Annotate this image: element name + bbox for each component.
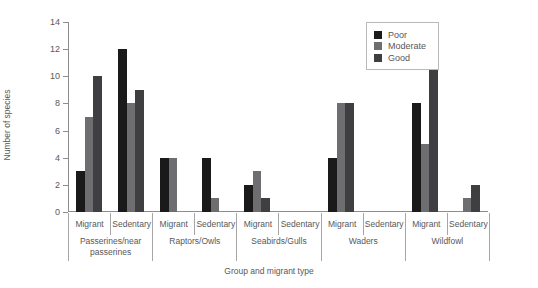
category-label-sedentary: Sedentary [279, 213, 321, 235]
category-axis-row: MigrantSedentaryMigrantSedentaryMigrantS… [68, 213, 490, 235]
bar [253, 171, 262, 212]
bar [463, 198, 472, 212]
legend-label: Poor [388, 30, 407, 40]
y-axis-tick-label: 10 [50, 71, 60, 81]
legend-label: Good [388, 53, 410, 63]
group-label: Raptors/Owls [153, 235, 237, 261]
bar [127, 103, 136, 212]
legend-item-poor: Poor [374, 30, 426, 40]
legend-item-good: Good [374, 53, 426, 63]
y-axis-tick-label: 12 [50, 44, 60, 54]
bar [93, 76, 102, 212]
y-axis-tick-label: 6 [55, 126, 60, 136]
bar [421, 144, 430, 212]
category-label-migrant: Migrant [237, 213, 279, 235]
bar-chart-figure: Number of species 02468101214 MigrantSed… [0, 0, 538, 288]
y-axis-title: Number of species [2, 0, 12, 60]
y-axis-tick-label: 8 [55, 98, 60, 108]
category-label-migrant: Migrant [406, 213, 448, 235]
bar [135, 90, 144, 212]
y-axis-title-text: Number of species [2, 60, 12, 190]
category-label-sedentary: Sedentary [364, 213, 406, 235]
bar [412, 103, 421, 212]
chart-legend: PoorModerateGood [366, 22, 439, 70]
y-axis-tick-label: 4 [55, 153, 60, 163]
group-axis-row: Passerines/near passerinesRaptors/OwlsSe… [68, 235, 490, 261]
category-label-migrant: Migrant [153, 213, 195, 235]
group-label: Wildfowl [406, 235, 490, 261]
bar [85, 117, 94, 212]
bar [261, 198, 270, 212]
legend-swatch-icon [374, 31, 382, 39]
bar [169, 158, 178, 212]
bar [328, 158, 337, 212]
legend-swatch-icon [374, 42, 382, 50]
category-label-sedentary: Sedentary [111, 213, 153, 235]
bar [202, 158, 211, 212]
bar [76, 171, 85, 212]
legend-swatch-icon [374, 54, 382, 62]
category-label-sedentary: Sedentary [195, 213, 237, 235]
group-label: Seabirds/Gulls [237, 235, 321, 261]
bar [345, 103, 354, 212]
category-label-migrant: Migrant [69, 213, 111, 235]
group-label: Waders [322, 235, 406, 261]
group-label: Passerines/near passerines [69, 235, 153, 261]
bar [118, 49, 127, 212]
bar [160, 158, 169, 212]
y-axis-tick-label: 0 [55, 207, 60, 217]
legend-item-moderate: Moderate [374, 41, 426, 51]
category-label-sedentary: Sedentary [448, 213, 490, 235]
bar [211, 198, 220, 212]
bar [244, 185, 253, 212]
category-label-migrant: Migrant [322, 213, 364, 235]
y-axis-tick-label: 2 [55, 180, 60, 190]
legend-label: Moderate [388, 41, 426, 51]
x-axis-title: Group and migrant type [0, 266, 538, 276]
y-axis-tick-label: 14 [50, 17, 60, 27]
bar [337, 103, 346, 212]
bar [471, 185, 480, 212]
